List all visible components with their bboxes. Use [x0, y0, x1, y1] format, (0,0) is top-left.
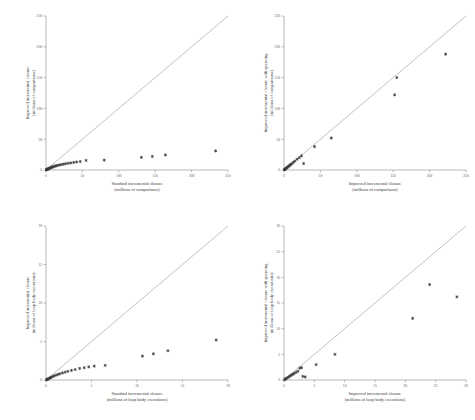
x-axis-units: (millions of comparisons): [352, 187, 398, 192]
data-point: [103, 159, 106, 162]
y-tick-label: 0: [278, 168, 280, 172]
x-tick-label: 0: [283, 384, 285, 388]
x-tick-label: 250: [463, 174, 469, 178]
x-axis-title: Standard incremental closure: [111, 391, 162, 396]
identity-reference-line: [284, 16, 466, 170]
x-tick-label: 0: [283, 174, 285, 178]
y-tick-label: 15: [276, 301, 280, 305]
data-point: [167, 349, 170, 352]
data-point: [215, 338, 218, 341]
data-point: [295, 371, 298, 374]
data-point: [164, 153, 167, 156]
y-tick-label: 150: [37, 76, 43, 80]
data-point: [78, 367, 81, 370]
x-tick-label: 20: [226, 384, 230, 388]
x-tick-label: 10: [135, 384, 139, 388]
plot-content-bottom-left: 0510152005101520Standard incremental clo…: [25, 224, 230, 401]
data-point: [85, 159, 88, 162]
x-tick-label: 250: [225, 174, 231, 178]
data-point: [428, 283, 431, 286]
data-point: [411, 317, 414, 320]
y-tick-label: 25: [276, 250, 280, 254]
data-point: [74, 368, 77, 371]
x-tick-label: 50: [81, 174, 85, 178]
x-axis-units: (millions of loop body executions): [107, 397, 168, 402]
data-point: [330, 136, 333, 139]
x-tick-label: 15: [373, 384, 377, 388]
x-tick-label: 150: [391, 174, 397, 178]
figure-container: 050100150200250050100150200250Standard i…: [0, 0, 475, 420]
x-tick-label: 200: [427, 174, 433, 178]
data-point: [66, 370, 69, 373]
data-point: [72, 161, 75, 164]
plot-content-bottom-right: 051015202530051015202530Improved increme…: [263, 224, 468, 401]
x-tick-label: 5: [91, 384, 93, 388]
data-point: [79, 160, 82, 163]
y-axis-units: (millions of loop body executions): [269, 272, 274, 333]
x-tick-label: 15: [181, 384, 185, 388]
y-axis-units: (millions of comparisons): [31, 70, 36, 116]
y-axis-units: (millions of comparisons): [269, 70, 274, 116]
y-tick-label: 5: [40, 340, 42, 344]
x-tick-label: 30: [464, 384, 468, 388]
plot-content-top-right: 050100150200250050100150200250Improved i…: [263, 14, 469, 191]
x-tick-label: 25: [434, 384, 438, 388]
y-tick-label: 250: [275, 14, 281, 18]
identity-reference-line: [46, 16, 228, 170]
x-axis-title: Improved incremental closure: [349, 391, 402, 396]
data-point: [70, 369, 73, 372]
data-point: [297, 370, 300, 373]
data-point: [313, 145, 316, 148]
data-point: [140, 156, 143, 159]
data-point: [87, 365, 90, 368]
data-point: [141, 355, 144, 358]
y-tick-label: 5: [278, 353, 280, 357]
y-tick-label: 150: [275, 76, 281, 80]
data-point: [61, 371, 64, 374]
x-tick-label: 100: [354, 174, 360, 178]
data-point: [302, 162, 305, 165]
data-point: [69, 161, 72, 164]
y-tick-label: 100: [37, 107, 43, 111]
plot-top-right: 050100150200250050100150200250Improved i…: [238, 0, 475, 210]
scatter-panel-bottom-right: 051015202530051015202530Improved increme…: [238, 210, 475, 420]
data-point: [93, 365, 96, 368]
y-tick-label: 50: [38, 138, 42, 142]
x-tick-label: 0: [45, 174, 47, 178]
y-tick-label: 100: [275, 107, 281, 111]
scatter-panel-bottom-left: 0510152005101520Standard incremental clo…: [0, 210, 237, 420]
data-point: [393, 93, 396, 96]
y-tick-label: 200: [37, 45, 43, 49]
y-tick-label: 20: [276, 276, 280, 280]
y-axis-title: Improved incremental closure: [25, 277, 30, 330]
y-axis-units: (millions of loop body executions): [31, 272, 36, 333]
data-point: [67, 162, 70, 165]
y-tick-label: 20: [38, 224, 42, 228]
data-point: [75, 160, 78, 163]
x-tick-label: 0: [45, 384, 47, 388]
plot-top-left: 050100150200250050100150200250Standard i…: [0, 0, 237, 210]
y-tick-label: 50: [276, 138, 280, 142]
x-tick-label: 200: [189, 174, 195, 178]
x-tick-label: 50: [319, 174, 323, 178]
data-point: [214, 149, 217, 152]
y-tick-label: 200: [275, 45, 281, 49]
data-point: [456, 295, 459, 298]
plot-bottom-left: 0510152005101520Standard incremental clo…: [0, 210, 237, 420]
data-point: [395, 76, 398, 79]
plot-bottom-right: 051015202530051015202530Improved increme…: [238, 210, 475, 420]
y-tick-label: 0: [40, 378, 42, 382]
y-tick-label: 0: [40, 168, 42, 172]
identity-reference-line: [284, 226, 466, 380]
x-axis-title: Improved incremental closure: [349, 181, 402, 186]
y-tick-label: 15: [38, 263, 42, 267]
y-tick-label: 10: [276, 327, 280, 331]
data-point: [83, 366, 86, 369]
x-axis-title: Standard incremental closure: [111, 181, 162, 186]
x-tick-label: 20: [404, 384, 408, 388]
data-point: [152, 352, 155, 355]
data-point: [64, 371, 67, 374]
y-tick-label: 30: [276, 224, 280, 228]
data-point: [444, 53, 447, 56]
y-tick-label: 10: [38, 301, 42, 305]
